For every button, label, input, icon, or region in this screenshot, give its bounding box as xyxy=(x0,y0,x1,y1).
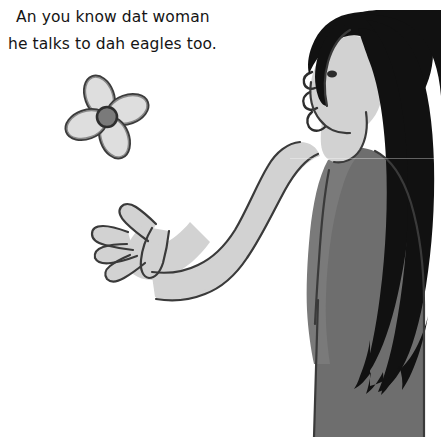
caption-line-2: he talks to dah eagles too. xyxy=(8,31,268,58)
caption-text-block: An you know dat woman he talks to dah ea… xyxy=(8,4,268,58)
caption-line-1: An you know dat woman xyxy=(8,4,268,31)
scan-artifact-line xyxy=(290,158,441,159)
illustration-canvas: An you know dat woman he talks to dah ea… xyxy=(0,0,441,437)
flower-center xyxy=(97,107,117,127)
four-petal-flower xyxy=(0,0,441,437)
